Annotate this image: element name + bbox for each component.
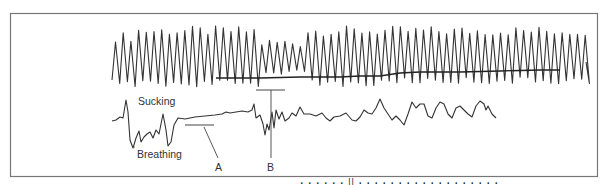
sucking-label: Sucking [138, 95, 176, 107]
breathing-label: Breathing [137, 148, 182, 160]
figure: A B Sucking Breathing [0, 0, 605, 185]
figure-frame [11, 14, 598, 177]
breathing-label-dot [133, 146, 135, 148]
marker-b-label: B [267, 161, 274, 173]
marker-a-leader [204, 127, 218, 158]
sucking-trace [112, 26, 589, 87]
caption-cutoff: . . . . . . || . . . . . . . . . . . . .… [0, 178, 605, 185]
marker-a-label: A [215, 161, 222, 173]
